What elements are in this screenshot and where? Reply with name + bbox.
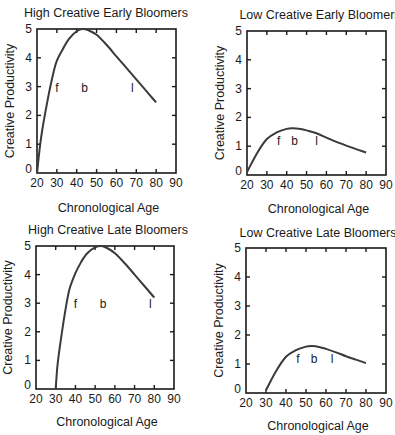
productivity-curve bbox=[247, 128, 366, 172]
y-tick-label: 4 bbox=[235, 53, 242, 67]
x-tick-label: 70 bbox=[340, 178, 354, 192]
y-tick-label: 3 bbox=[234, 299, 241, 313]
chart-title: Low Creative Late Bloomers bbox=[239, 226, 395, 240]
y-axis-label: Creative Productivity bbox=[213, 45, 227, 160]
y-tick-label: 0 bbox=[235, 164, 242, 178]
x-tick-label: 50 bbox=[90, 176, 104, 190]
x-tick-label: 40 bbox=[70, 176, 84, 190]
career-marker-b: b bbox=[81, 81, 88, 95]
career-marker-b: b bbox=[291, 134, 298, 148]
career-marker-l: l bbox=[131, 81, 134, 95]
y-tick-label: 2 bbox=[24, 325, 31, 339]
career-marker-l: l bbox=[315, 134, 318, 148]
x-tick-label: 60 bbox=[108, 392, 122, 406]
productivity-curve bbox=[37, 29, 156, 173]
x-tick-label: 90 bbox=[167, 392, 181, 406]
x-tick-label: 60 bbox=[110, 176, 124, 190]
x-tick-label: 70 bbox=[130, 176, 144, 190]
y-tick-label: 0 bbox=[234, 382, 241, 396]
y-tick-label: 3 bbox=[24, 296, 31, 310]
x-tick-label: 80 bbox=[148, 392, 162, 406]
x-tick-label: 30 bbox=[49, 392, 63, 406]
x-tick-label: 30 bbox=[260, 178, 274, 192]
chart-title: Low Creative Early Bloomers bbox=[239, 8, 395, 22]
y-axis-label: Creative Productivity bbox=[212, 262, 226, 377]
x-tick-label: 40 bbox=[280, 178, 294, 192]
y-tick-label: 1 bbox=[24, 353, 31, 367]
career-marker-f: f bbox=[277, 134, 281, 148]
career-marker-f: f bbox=[296, 352, 300, 366]
chart-panel-3: High Creative Late Bloomers2030405060708… bbox=[1, 223, 188, 429]
y-tick-label: 5 bbox=[25, 22, 32, 36]
plot-frame bbox=[247, 31, 386, 175]
y-axis-label: Creative Productivity bbox=[1, 259, 15, 374]
x-tick-label: 80 bbox=[149, 176, 163, 190]
x-tick-label: 20 bbox=[239, 396, 253, 410]
x-tick-label: 20 bbox=[240, 178, 254, 192]
y-tick-label: 3 bbox=[25, 80, 32, 94]
x-tick-label: 90 bbox=[169, 176, 183, 190]
x-tick-label: 40 bbox=[279, 396, 293, 410]
x-tick-label: 90 bbox=[379, 396, 393, 410]
productivity-curve bbox=[56, 246, 155, 389]
x-tick-label: 50 bbox=[88, 392, 102, 406]
chart-title: High Creative Early Bloomers bbox=[24, 6, 188, 20]
x-axis-label: Chronological Age bbox=[56, 415, 158, 429]
x-tick-label: 30 bbox=[259, 396, 273, 410]
y-tick-label: 1 bbox=[235, 139, 242, 153]
y-tick-label: 0 bbox=[25, 162, 32, 176]
x-tick-label: 60 bbox=[319, 396, 333, 410]
career-marker-l: l bbox=[149, 297, 152, 311]
plot-frame bbox=[246, 248, 386, 393]
x-tick-label: 80 bbox=[359, 178, 373, 192]
career-marker-l: l bbox=[331, 352, 334, 366]
y-tick-label: 2 bbox=[25, 108, 32, 122]
x-tick-label: 60 bbox=[320, 178, 334, 192]
y-tick-label: 1 bbox=[25, 137, 32, 151]
x-tick-label: 70 bbox=[339, 396, 353, 410]
y-tick-label: 2 bbox=[235, 110, 242, 124]
y-tick-label: 3 bbox=[235, 82, 242, 96]
chart-title: High Creative Late Bloomers bbox=[28, 223, 188, 237]
chart-figure: High Creative Early Bloomers203040506070… bbox=[0, 0, 395, 435]
x-axis-label: Chronological Age bbox=[268, 202, 370, 216]
y-axis-label: Creative Productivity bbox=[3, 43, 17, 158]
chart-panel-1: High Creative Early Bloomers203040506070… bbox=[3, 6, 188, 215]
career-marker-f: f bbox=[55, 81, 59, 95]
y-tick-label: 4 bbox=[234, 270, 241, 284]
y-tick-label: 5 bbox=[235, 24, 242, 38]
x-axis-label: Chronological Age bbox=[58, 201, 160, 215]
y-tick-label: 5 bbox=[24, 239, 31, 253]
x-tick-label: 30 bbox=[50, 176, 64, 190]
x-tick-label: 70 bbox=[128, 392, 142, 406]
career-marker-f: f bbox=[74, 297, 78, 311]
y-tick-label: 4 bbox=[25, 51, 32, 65]
y-tick-label: 2 bbox=[234, 328, 241, 342]
chart-panel-2: Low Creative Early Bloomers2030405060708… bbox=[213, 8, 395, 216]
y-tick-label: 4 bbox=[24, 268, 31, 282]
y-tick-label: 0 bbox=[24, 378, 31, 392]
career-marker-b: b bbox=[311, 352, 318, 366]
x-tick-label: 80 bbox=[359, 396, 373, 410]
x-tick-label: 50 bbox=[299, 396, 313, 410]
y-tick-label: 5 bbox=[234, 241, 241, 255]
x-tick-label: 20 bbox=[29, 392, 43, 406]
career-marker-b: b bbox=[100, 297, 107, 311]
chart-panel-4: Low Creative Late Bloomers20304050607080… bbox=[212, 226, 395, 433]
x-tick-label: 50 bbox=[300, 178, 314, 192]
x-axis-label: Chronological Age bbox=[267, 419, 369, 433]
x-tick-label: 90 bbox=[379, 178, 393, 192]
y-tick-label: 1 bbox=[234, 357, 241, 371]
x-tick-label: 20 bbox=[30, 176, 44, 190]
x-tick-label: 40 bbox=[69, 392, 83, 406]
